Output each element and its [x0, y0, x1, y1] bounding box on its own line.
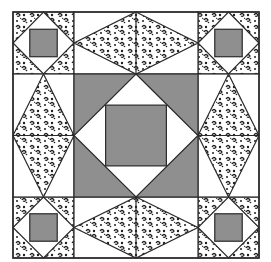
- center-square: [74, 74, 198, 197]
- corner-top-left: [13, 12, 74, 74]
- side-right: [198, 74, 259, 197]
- side-left: [13, 74, 74, 197]
- gray-square: [215, 29, 242, 56]
- gray-square: [30, 29, 57, 56]
- corner-bottom-left: [13, 197, 74, 258]
- corner-bottom-right: [198, 197, 259, 258]
- corner-top-right: [198, 12, 259, 74]
- side-top: [74, 12, 198, 74]
- gray-square: [30, 214, 57, 241]
- side-bottom: [74, 197, 198, 258]
- gray-square: [106, 105, 167, 166]
- quilt-block-figure: [0, 0, 271, 262]
- gray-square: [215, 214, 242, 241]
